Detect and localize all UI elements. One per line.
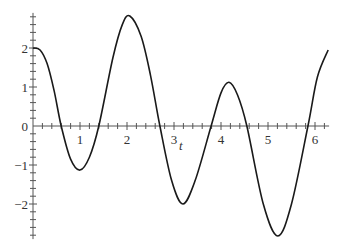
x-tick-label-2: 2 <box>124 132 131 147</box>
y-tick-label-neg1: −1 <box>14 158 28 173</box>
x-axis-label: t <box>179 138 183 153</box>
y-tick-label-0: 0 <box>22 119 29 134</box>
x-tick-label-3: 3 <box>171 132 178 147</box>
line-chart: 1 2 3 4 5 6 t 2 1 0 −1 −2 <box>0 0 341 251</box>
x-tick-label-4: 4 <box>218 132 225 147</box>
y-tick-label-neg2: −2 <box>14 197 28 212</box>
x-tick-label-1: 1 <box>77 132 84 147</box>
y-tick-label-1: 1 <box>22 80 29 95</box>
axes <box>33 13 329 239</box>
x-tick-label-5: 5 <box>265 132 272 147</box>
y-tick-label-2: 2 <box>22 41 29 56</box>
x-tick-label-6: 6 <box>312 132 319 147</box>
